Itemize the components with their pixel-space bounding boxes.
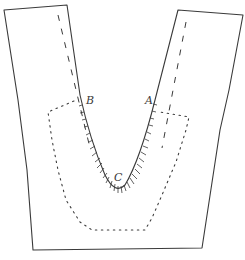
facing-outline	[48, 101, 189, 230]
diagram-canvas	[0, 0, 245, 260]
point-label-a: A	[145, 95, 153, 106]
point-label-b: B	[86, 95, 94, 106]
seam-line-left	[58, 15, 90, 148]
outer-outline	[4, 5, 243, 250]
point-label-c: C	[114, 172, 122, 183]
seam-line-right	[162, 22, 186, 148]
pattern-diagram: B A C	[0, 0, 245, 260]
